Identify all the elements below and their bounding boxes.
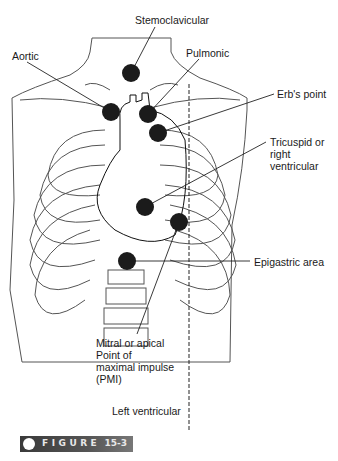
torso-diagram <box>0 0 338 461</box>
label-epigastric: Epigastric area <box>254 256 324 268</box>
figure-bullet-icon <box>23 438 35 450</box>
label-left-ventricular: Left ventricular <box>112 405 181 417</box>
label-mitral: Mitral or apical Point of maximal impuls… <box>96 337 174 385</box>
label-aortic: Aortic <box>12 50 39 62</box>
figure-word: FIGURE <box>42 438 100 448</box>
label-pulmonic: Pulmonic <box>186 47 229 59</box>
figure-number: 15-3 <box>104 438 127 448</box>
label-tricuspid: Tricuspid or right ventricular <box>270 136 324 172</box>
label-sternoclavicular: Stemoclavicular <box>135 14 209 26</box>
figure-label: FIGURE 15-3 <box>20 436 133 452</box>
label-erbs-point: Erb's point <box>277 88 326 100</box>
